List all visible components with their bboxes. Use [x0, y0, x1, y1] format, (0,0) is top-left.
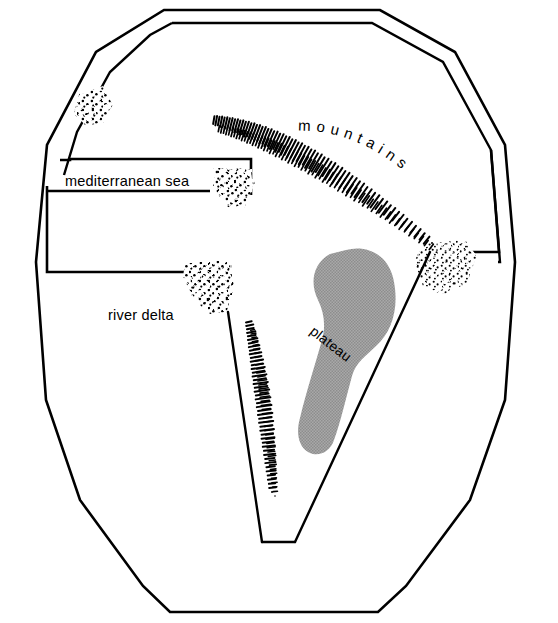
label-river-delta: river delta: [108, 307, 175, 323]
map-canvas: mediterranean sea mountains plateau rive…: [0, 0, 558, 623]
stipple-northwest: [74, 86, 112, 126]
stipple-river-delta: [183, 262, 233, 314]
sea-south-shore-path: [47, 186, 192, 272]
schematic-map-figure: mediterranean sea mountains plateau rive…: [0, 0, 558, 623]
coastline-inner-path: [172, 23, 500, 262]
stipple-patches: [74, 86, 476, 314]
coastline-inner-right-path: [432, 150, 499, 252]
stipple-sea-mouth: [214, 168, 254, 208]
label-mediterranean-sea: mediterranean sea: [65, 173, 190, 189]
